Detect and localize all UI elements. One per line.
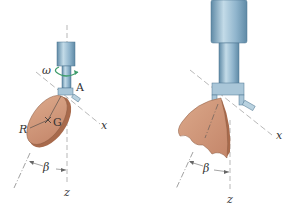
omega-label: ω	[42, 64, 51, 77]
shaft-upper	[211, 0, 247, 43]
shaft-lower	[62, 66, 71, 88]
clevis-bracket	[58, 88, 73, 95]
beta-label: β	[42, 161, 49, 174]
z-axis-label: z	[226, 193, 233, 205]
pivot-pin	[242, 100, 255, 110]
beta-label: β	[202, 162, 209, 175]
shaft-lower	[219, 43, 239, 85]
radius-label: R	[18, 123, 27, 136]
clevis-bracket	[212, 83, 244, 95]
z-axis-label: z	[63, 186, 70, 199]
disk	[178, 98, 227, 158]
x-axis-label: x	[101, 119, 108, 132]
disk-axis-line	[14, 153, 30, 188]
left-panel: ω A G R x z β	[14, 25, 108, 199]
shaft-upper	[57, 42, 75, 66]
right-panel: x z β	[176, 0, 283, 205]
diagram-canvas: ω A G R x z β x z β	[0, 0, 297, 205]
pivot-pin	[72, 94, 81, 102]
center-label: G	[53, 116, 62, 129]
pivot-label: A	[75, 81, 85, 94]
pendulum-figure: ω A G R x z β x z β	[0, 0, 297, 205]
x-axis-label: x	[276, 129, 283, 142]
